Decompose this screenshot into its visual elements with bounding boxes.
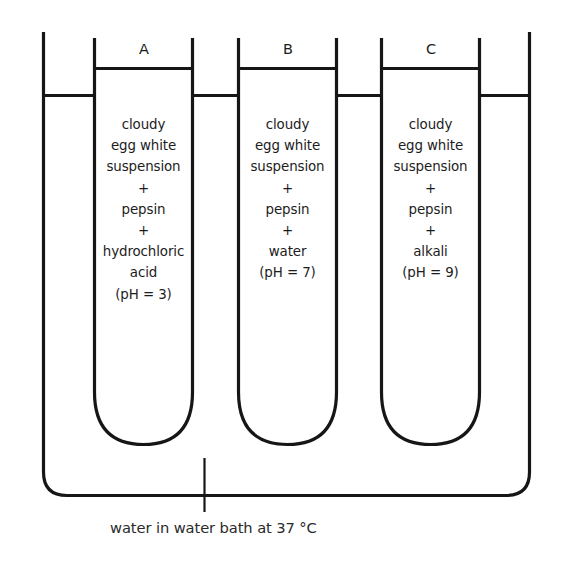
- tube-label-c: C: [381, 41, 481, 57]
- tube-contents-b: cloudy egg white suspension + pepsin + w…: [230, 114, 345, 284]
- tube-a-line-2: egg white: [86, 135, 201, 156]
- tube-label-a: A: [94, 41, 194, 57]
- tube-c-line-6: +: [373, 220, 488, 241]
- tube-b-line-6: +: [230, 220, 345, 241]
- tube-c-line-7: alkali: [373, 241, 488, 262]
- tube-c-line-8: (pH = 9): [373, 262, 488, 283]
- tube-a-line-1: cloudy: [86, 114, 201, 135]
- tube-c-line-1: cloudy: [373, 114, 488, 135]
- tube-b-line-3: suspension: [230, 156, 345, 177]
- tube-c-line-5: pepsin: [373, 199, 488, 220]
- tube-b-line-1: cloudy: [230, 114, 345, 135]
- tube-a-line-8: acid: [86, 262, 201, 283]
- tube-b-line-7: water: [230, 241, 345, 262]
- tube-a-line-7: hydrochloric: [86, 241, 201, 262]
- tube-contents-c: cloudy egg white suspension + pepsin + a…: [373, 114, 488, 284]
- water-bath-caption: water in water bath at 37 °C: [110, 519, 317, 536]
- tube-a-line-6: +: [86, 220, 201, 241]
- tube-a-line-9: (pH = 3): [86, 284, 201, 305]
- tube-c-line-3: suspension: [373, 156, 488, 177]
- tube-label-b: B: [238, 41, 338, 57]
- tube-b-line-4: +: [230, 178, 345, 199]
- tube-b-line-2: egg white: [230, 135, 345, 156]
- tube-c-line-4: +: [373, 178, 488, 199]
- tube-a-line-4: +: [86, 178, 201, 199]
- tube-b-line-5: pepsin: [230, 199, 345, 220]
- tube-c-line-2: egg white: [373, 135, 488, 156]
- tube-contents-a: cloudy egg white suspension + pepsin + h…: [86, 114, 201, 305]
- experiment-diagram: A B C cloudy egg white suspension + peps…: [0, 0, 577, 564]
- tube-a-line-3: suspension: [86, 156, 201, 177]
- tube-b-line-8: (pH = 7): [230, 262, 345, 283]
- tube-a-line-5: pepsin: [86, 199, 201, 220]
